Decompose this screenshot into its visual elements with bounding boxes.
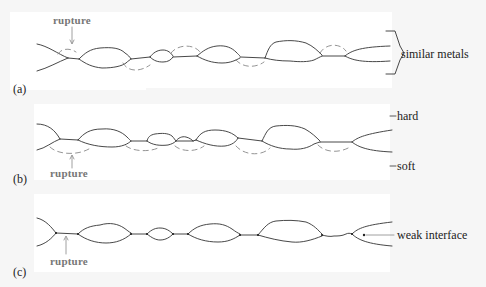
panel-a-letter: (a): [13, 83, 26, 95]
asperity-diagram: [0, 0, 486, 287]
panel-c-rupture-label: rupture: [50, 256, 88, 267]
panel-b-letter: (b): [13, 173, 27, 185]
panel-b-surfaces: [37, 124, 392, 152]
similar-metals-label: similar metals: [401, 48, 469, 60]
weak-interface-label: weak interface: [397, 229, 467, 241]
panel-a-surfaces: [37, 31, 404, 74]
panel-b-rupture-paths: [50, 145, 350, 154]
panel-b-rupture-label: rupture: [50, 168, 88, 179]
panel-c-junction-dots: [55, 232, 365, 236]
panel-a-rupture-paths: [58, 45, 346, 70]
hard-label: hard: [397, 110, 418, 122]
figure-canvas: rupture similar metals (a) hard soft rup…: [0, 0, 486, 287]
panel-c-letter: (c): [13, 266, 26, 278]
soft-label: soft: [397, 160, 415, 172]
panel-c-surfaces: [37, 218, 392, 246]
panel-a-rupture-label: rupture: [53, 15, 91, 26]
